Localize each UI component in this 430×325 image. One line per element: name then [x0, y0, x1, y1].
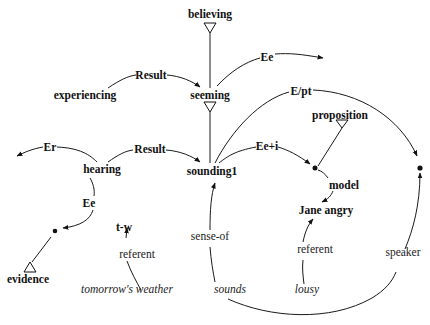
isa-triangle-icon	[204, 23, 216, 33]
isa-triangle-icon	[204, 102, 216, 112]
node-sounding1: sounding1	[187, 165, 238, 178]
node-sounds: sounds	[214, 283, 246, 295]
label-er: Er	[44, 141, 57, 153]
label-e-pt: E/pt	[290, 85, 311, 98]
proposition-dot	[313, 166, 318, 171]
label-ee-left: Ee	[83, 197, 96, 209]
semantic-network-diagram: believing seeming experiencing hearing s…	[0, 0, 430, 325]
node-proposition: proposition	[312, 109, 369, 122]
label-speaker: speaker	[385, 246, 420, 259]
node-lousy: lousy	[295, 283, 320, 296]
label-ee-i: Ee+i	[256, 140, 279, 152]
edge-referent-jane-angry	[303, 219, 313, 242]
edge-dot-model	[318, 170, 328, 178]
node-seeming: seeming	[190, 89, 230, 102]
node-hearing: hearing	[83, 163, 121, 176]
node-model: model	[329, 179, 359, 191]
edge-hearing-er	[17, 147, 97, 162]
speaker-dot	[417, 165, 422, 170]
node-t-w: t-w	[116, 221, 133, 233]
isa-triangle-icon	[336, 120, 348, 128]
edge-evidence-dot	[32, 237, 51, 262]
edge-lousy-referent	[303, 260, 304, 284]
node-tomorrows-weather: tomorrow's weather	[81, 283, 173, 295]
label-ee-top: Ee	[261, 51, 274, 63]
node-experiencing: experiencing	[54, 89, 117, 102]
edge-model-jane-angry	[322, 191, 333, 202]
label-referent-right: referent	[297, 243, 334, 255]
label-sense-of: sense-of	[191, 230, 229, 242]
label-result-top: Result	[135, 69, 166, 81]
isa-triangle-icon	[24, 262, 36, 272]
label-referent-left: referent	[119, 248, 156, 260]
node-believing: believing	[188, 8, 232, 21]
node-jane-angry: Jane angry	[299, 204, 354, 217]
edge-sounding1-ept-speakerdot	[215, 90, 417, 163]
evidence-dot	[53, 229, 58, 234]
label-result-bottom: Result	[134, 143, 165, 155]
node-evidence: evidence	[7, 273, 49, 285]
edge-proposition-dot	[318, 128, 342, 166]
